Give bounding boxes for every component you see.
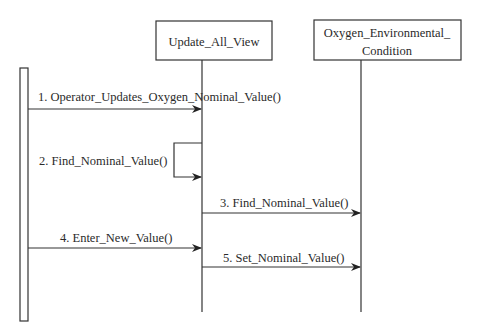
message-label: 1. Operator_Updates_Oxygen_Nominal_Value… [38,90,281,104]
message-label: 5. Set_Nominal_Value() [223,251,345,265]
message-label: 3. Find_Nominal_Value() [220,196,348,210]
actor-activation-bar [20,68,28,321]
lifeline-title: Update_All_View [169,35,260,49]
sequence-diagram: Update_All_View Oxygen_Environmental_ Co… [0,0,477,336]
message-self-arrow [174,143,202,177]
message-label: 4. Enter_New_Value() [60,231,172,245]
message-1: 1. Operator_Updates_Oxygen_Nominal_Value… [28,90,281,109]
message-3: 3. Find_Nominal_Value() [202,196,360,213]
message-label: 2. Find_Nominal_Value() [39,154,167,168]
lifeline-title-line-2: Condition [362,44,413,58]
lifeline-oxygen-environmental-condition: Oxygen_Environmental_ Condition [314,20,461,312]
message-5: 5. Set_Nominal_Value() [202,251,360,267]
message-4: 4. Enter_New_Value() [28,231,201,248]
lifeline-title-line-1: Oxygen_Environmental_ [324,26,451,40]
message-2: 2. Find_Nominal_Value() [39,143,202,177]
